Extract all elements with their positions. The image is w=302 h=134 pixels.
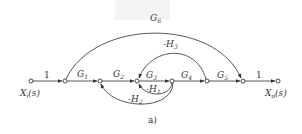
label-output-signal: Xo(s): [264, 88, 287, 99]
node-5: [205, 79, 209, 83]
figure-caption: a): [148, 115, 157, 125]
label-g5: G5: [217, 70, 228, 81]
label-g4: G4: [181, 70, 192, 81]
label-h2: -H2: [128, 94, 143, 105]
node-output: [276, 79, 280, 83]
label-h3: -H3: [163, 39, 178, 50]
node-4: [170, 79, 174, 83]
label-g2: G2: [113, 69, 124, 80]
edge-g6-feedforward: [66, 33, 241, 79]
node-2: [98, 79, 102, 83]
label-g1: G1: [77, 69, 88, 80]
node-input: [29, 79, 33, 83]
node-1: [63, 79, 67, 83]
label-h1: -H1: [146, 84, 161, 95]
label-input-signal: Xi(s): [19, 88, 40, 99]
signal-flow-graph: 1 G1 G2 G3 G4 G5 1 G6 -H3 -H1 -H2 Xi(s) …: [0, 0, 302, 134]
label-g3: G3: [146, 70, 157, 81]
label-gain-input: 1: [44, 70, 50, 80]
node-3: [135, 79, 139, 83]
background-artifact: [115, 0, 170, 20]
node-6: [241, 79, 245, 83]
label-gain-output: 1: [256, 70, 262, 80]
